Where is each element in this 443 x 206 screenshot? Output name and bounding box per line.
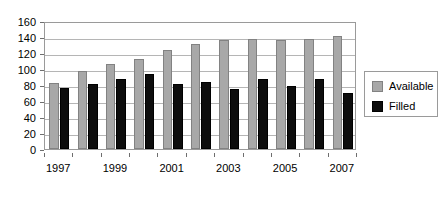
y-tick-label: 140 (18, 33, 36, 44)
bar-chart: 020406080100120140160 199719992001200320… (0, 0, 443, 206)
bar-available (163, 50, 173, 149)
y-axis: 020406080100120140160 (0, 0, 44, 206)
y-tick-label: 60 (24, 97, 36, 108)
y-tick-label: 0 (30, 145, 36, 156)
legend-item: Filled (372, 100, 415, 113)
bar-filled (201, 82, 211, 149)
bar-filled (343, 93, 353, 149)
x-tick-mark (328, 153, 329, 157)
bar-filled (315, 79, 325, 149)
bar-filled (173, 84, 183, 149)
bar-group (300, 23, 328, 149)
bar-available (333, 36, 343, 149)
x-tick-label: 2005 (273, 163, 297, 174)
bar-filled (60, 88, 70, 149)
bar-available (78, 71, 88, 149)
x-tick-mark (157, 153, 158, 157)
x-tick-mark (72, 153, 73, 157)
y-tick-label: 100 (18, 65, 36, 76)
bar-filled (287, 86, 297, 149)
legend: AvailableFilled (364, 71, 438, 117)
legend-item: Available (372, 80, 433, 93)
y-tick-label: 160 (18, 17, 36, 28)
bar-group (244, 23, 272, 149)
x-tick-mark (299, 153, 300, 157)
legend-label: Filled (389, 101, 415, 112)
bar-group (187, 23, 215, 149)
bar-group (45, 23, 73, 149)
x-tick-mark (44, 153, 45, 157)
bar-filled (88, 84, 98, 149)
bar-available (219, 40, 229, 149)
x-axis: 199719992001200320052007 (44, 153, 356, 183)
x-tick-mark (214, 153, 215, 157)
legend-swatch-available (372, 81, 383, 92)
x-tick-mark (186, 153, 187, 157)
bar-filled (145, 74, 155, 149)
legend-label: Available (389, 81, 433, 92)
bar-available (106, 64, 116, 149)
bar-available (191, 44, 201, 149)
y-tick-mark (40, 150, 44, 151)
bar-group (329, 23, 357, 149)
legend-swatch-filled (372, 101, 383, 112)
x-tick-label: 2007 (330, 163, 354, 174)
bar-group (158, 23, 186, 149)
bar-filled (116, 79, 126, 149)
x-tick-mark (243, 153, 244, 157)
x-tick-mark (101, 153, 102, 157)
x-tick-mark (129, 153, 130, 157)
x-tick-label: 2003 (216, 163, 240, 174)
bar-group (272, 23, 300, 149)
bar-available (248, 39, 258, 149)
bar-available (276, 40, 286, 149)
plot-area (44, 22, 356, 150)
bar-available (134, 59, 144, 149)
x-tick-mark (271, 153, 272, 157)
y-tick-label: 120 (18, 49, 36, 60)
y-tick-label: 20 (24, 129, 36, 140)
bar-group (130, 23, 158, 149)
x-tick-mark (356, 153, 357, 157)
x-tick-label: 1999 (103, 163, 127, 174)
y-tick-label: 80 (24, 81, 36, 92)
bar-filled (258, 79, 268, 149)
bar-group (73, 23, 101, 149)
y-tick-label: 40 (24, 113, 36, 124)
bar-available (304, 39, 314, 149)
bar-group (215, 23, 243, 149)
x-tick-label: 2001 (159, 163, 183, 174)
bar-group (102, 23, 130, 149)
x-tick-label: 1997 (46, 163, 70, 174)
bar-available (49, 83, 59, 149)
bar-filled (230, 89, 240, 149)
